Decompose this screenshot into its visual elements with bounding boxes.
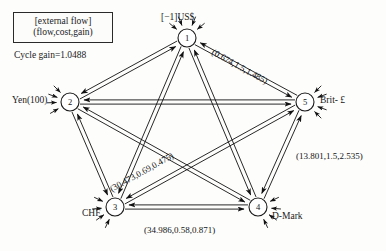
legend-external-flow: [external flow]	[16, 16, 110, 27]
cycle-gain-text: Cycle gain=1.0488	[14, 50, 86, 60]
edge-layer	[72, 41, 301, 209]
node-5[interactable]: 5	[296, 93, 314, 111]
node-layer: 12345	[61, 29, 314, 216]
node-4[interactable]: 4	[249, 198, 267, 216]
node-3[interactable]: 3	[106, 198, 124, 216]
node-1[interactable]: 1	[178, 29, 196, 47]
node-number-3: 3	[113, 202, 117, 212]
diagram-canvas: 12345 [external flow] (flow,cost,gain) C…	[0, 0, 386, 251]
label-4-5: (13.801,1.5,2.535)	[296, 151, 363, 161]
label-3-4: (34.986,0.58,0.871)	[144, 225, 215, 235]
node-number-5: 5	[303, 97, 307, 107]
edge-3-4	[125, 205, 248, 209]
node-number-1: 1	[185, 33, 189, 43]
external-flow-2	[47, 86, 60, 114]
external-flow-layer	[47, 17, 327, 228]
node-number-2: 2	[68, 97, 72, 107]
node-label-5: Brit- £	[320, 95, 345, 105]
node-label-1: [−1]US$	[161, 12, 194, 22]
edge-2-5	[80, 100, 295, 104]
node-label-2: Yen(100)	[12, 95, 47, 105]
node-2[interactable]: 2	[61, 93, 79, 111]
legend-flow-cost-gain: (flow,cost,gain)	[16, 27, 110, 38]
node-label-4: D-Mark	[272, 211, 303, 221]
legend-box: [external flow] (flow,cost,gain)	[13, 12, 113, 43]
node-label-3: CHF	[82, 208, 100, 218]
